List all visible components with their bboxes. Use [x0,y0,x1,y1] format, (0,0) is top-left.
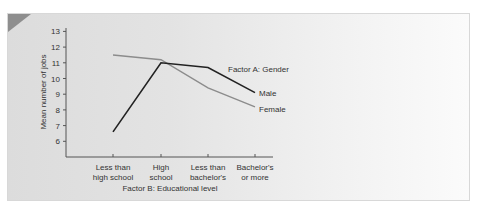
line-chart: 678910111213 Less thanhigh schoolHighsch… [0,0,477,211]
legend-male: Male [259,89,277,98]
x-tick-label: Less than [191,163,226,172]
y-axis-label: Mean number of jobs [39,54,48,129]
y-tick-label: 6 [56,137,61,146]
legend-title: Factor A: Gender [228,65,289,74]
x-tick-label: High [153,163,169,172]
x-axis-label: Factor B: Educational level [122,184,217,193]
y-tick-label: 12 [51,43,60,52]
x-ticks: Less thanhigh schoolHighschoolLess thanb… [93,154,274,182]
x-tick-label: high school [93,173,134,182]
x-tick-label: Less than [96,163,131,172]
y-tick-label: 11 [52,59,61,68]
legend-female: Female [259,105,286,114]
x-tick-label: bachelor's [190,173,226,182]
x-tick-label: or more [241,173,269,182]
y-tick-label: 10 [51,75,60,84]
y-tick-label: 9 [56,90,61,99]
y-tick-label: 13 [51,27,60,36]
x-tick-label: Bachelor's [236,163,273,172]
y-ticks: 678910111213 [51,27,66,146]
y-tick-label: 8 [56,106,61,115]
x-tick-label: school [149,173,172,182]
y-tick-label: 7 [56,122,61,131]
